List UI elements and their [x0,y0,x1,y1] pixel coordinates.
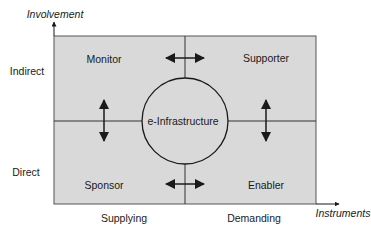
y-level-direct: Direct [12,166,39,178]
quadrant-supporter: Supporter [243,52,289,64]
y-axis-title: Involvement [27,8,84,20]
quadrant-sponsor: Sponsor [84,179,123,191]
quadrant-monitor: Monitor [86,53,121,65]
center-label: e-Infrastructure [147,115,218,127]
y-level-indirect: Indirect [10,65,44,77]
x-axis-title: Instruments [316,207,371,219]
x-level-supplying: Supplying [101,212,147,224]
quadrant-enabler: Enabler [248,179,284,191]
x-level-demanding: Demanding [227,212,281,224]
